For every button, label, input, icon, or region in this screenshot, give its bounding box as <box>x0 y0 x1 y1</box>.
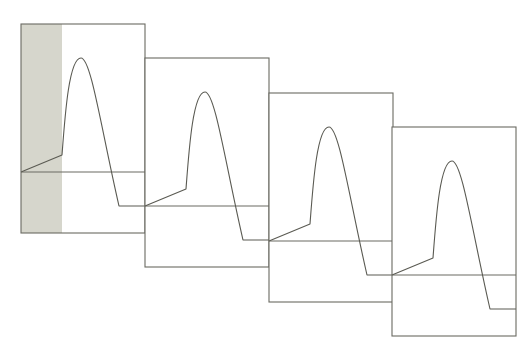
pulse-propagation-diagram <box>0 0 532 353</box>
panel-background <box>269 93 393 302</box>
panel-background <box>392 127 516 336</box>
panel-1 <box>21 24 145 233</box>
panel-background <box>145 58 269 267</box>
panel-3 <box>269 93 393 302</box>
panel-2 <box>145 58 269 267</box>
panel-4 <box>392 127 516 336</box>
shaded-region <box>21 24 62 233</box>
